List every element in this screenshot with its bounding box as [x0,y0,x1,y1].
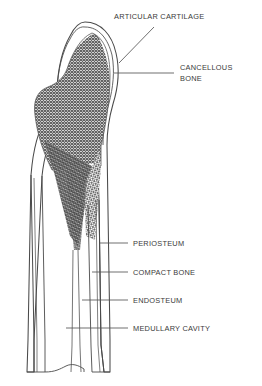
label-cancellous-bone-line2: BONE [180,74,233,85]
label-cancellous-bone: CANCELLOUS BONE [180,63,233,84]
label-endosteum: ENDOSTEUM [133,296,182,307]
label-medullary-cavity: MEDULLARY CAVITY [133,324,210,335]
label-cancellous-bone-line1: CANCELLOUS [180,63,233,74]
label-periosteum: PERIOSTEUM [133,239,184,250]
label-compact-bone: COMPACT BONE [133,268,195,279]
bone-cut-edge [27,365,110,372]
leader-articular-cartilage [119,27,154,63]
femur-anatomy-diagram [0,0,262,386]
label-articular-cartilage: ARTICULAR CARTILAGE [114,12,204,23]
